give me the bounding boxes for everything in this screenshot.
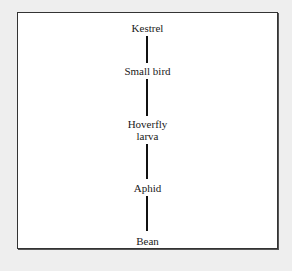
- edge-kestrel-small-bird: [146, 36, 148, 63]
- node-hoverfly-larva-line1: Hoverfly: [18, 118, 277, 130]
- edge-hoverfly-larva-aphid: [146, 144, 148, 179]
- node-small-bird: Small bird: [18, 65, 277, 77]
- node-kestrel: Kestrel: [18, 22, 277, 34]
- edge-small-bird-hoverfly-larva: [146, 79, 148, 116]
- node-hoverfly-larva-line2: larva: [18, 130, 277, 142]
- diagram-panel: Kestrel Small bird Hoverfly larva Aphid …: [17, 12, 278, 249]
- node-bean: Bean: [18, 235, 277, 247]
- edge-aphid-bean: [146, 196, 148, 231]
- node-aphid: Aphid: [18, 182, 277, 194]
